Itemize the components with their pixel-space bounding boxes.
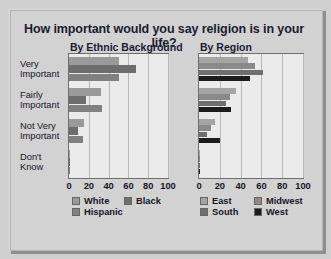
y-tick-label-line: Fairly [20,90,68,100]
bar [69,96,86,104]
legend-item[interactable]: Midwest [254,196,303,206]
y-tick-label-line: Important [20,69,68,79]
x-tick-label: 60 [123,181,133,191]
bar [69,65,136,73]
y-tick-label: VeryImportant [20,59,68,80]
bar [199,119,215,125]
gridline [168,54,169,178]
y-tick-label-line: Not Very [20,121,68,131]
bar [199,125,211,131]
bar [199,169,200,175]
bar [69,57,119,65]
x-tick-label: 20 [215,181,225,191]
bar [69,119,84,127]
legend-swatch [72,208,80,216]
x-tick-label: 100 [160,181,176,191]
x-tick-label: 40 [103,181,113,191]
legend-item[interactable]: South [200,207,238,217]
y-tick-label: FairlyImportant [20,90,68,111]
legend-swatch [124,197,132,205]
legend-item[interactable]: White [72,196,109,206]
legend-item[interactable]: Black [124,196,161,206]
x-tick-label: 80 [143,181,153,191]
bar [199,70,263,76]
x-tick-label: 80 [277,181,287,191]
bar [199,150,200,156]
legend-swatch [200,208,208,216]
bar [69,136,83,144]
legend-label: Black [136,196,161,206]
x-tick-label: 40 [235,181,245,191]
legend-item[interactable]: Hispanic [72,207,123,217]
gridline [303,54,304,178]
legend-label: East [212,196,232,206]
bar [69,74,119,82]
legend-item[interactable]: East [200,196,232,206]
y-tick-label: Not VeryImportant [20,121,68,142]
bar [199,63,255,69]
bar [199,156,200,162]
y-tick-label-line: Know [20,162,68,172]
bar [69,158,70,166]
bar [199,94,230,100]
legend-swatch [254,197,262,205]
y-tick-label-line: Don't [20,152,68,162]
bar [69,127,78,135]
legend-label: South [212,207,238,217]
y-tick-label-line: Important [20,100,68,110]
legend-swatch [200,197,208,205]
bar [199,57,248,63]
y-tick-label-line: Very [20,59,68,69]
gridline [282,54,283,178]
bar [199,101,226,107]
chart-plot-region [198,53,304,179]
bar [69,150,70,158]
x-tick-label: 60 [256,181,266,191]
gridline [148,54,149,178]
bar [199,107,231,113]
bar [69,167,70,175]
legend-swatch [72,197,80,205]
bar [69,88,101,96]
bar [199,138,220,144]
x-tick-label: 0 [196,181,201,191]
legend-label: West [266,207,288,217]
panel-heading-ethnic: By Ethnic Background [70,41,183,53]
legend-label: White [84,196,109,206]
x-tick-label: 20 [84,181,94,191]
x-tick-label: 0 [66,181,71,191]
y-tick-label: Don'tKnow [20,152,68,173]
y-tick-label-line: Important [20,131,68,141]
chart-plot-ethnic [68,53,169,179]
legend-swatch [254,208,262,216]
legend-label: Midwest [266,196,303,206]
bar [69,105,102,113]
legend-label: Hispanic [84,207,123,217]
bar [199,163,200,169]
x-tick-label: 100 [295,181,311,191]
bar [199,132,207,138]
bar [199,88,236,94]
legend-item[interactable]: West [254,207,288,217]
panel-heading-region: By Region [200,41,252,53]
bar [199,76,250,82]
